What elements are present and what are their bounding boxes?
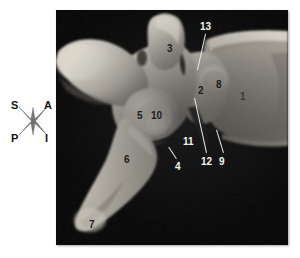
structure-label-7: 7 <box>89 220 95 230</box>
structure-label-3: 3 <box>167 44 173 54</box>
specimen-photograph: 12345678910111213 <box>56 10 288 245</box>
structure-label-13: 13 <box>200 22 211 32</box>
structure-label-10: 10 <box>151 111 162 121</box>
leader-line-13 <box>197 34 206 70</box>
leader-line-4 <box>168 146 177 159</box>
structure-label-8: 8 <box>216 80 222 90</box>
structure-label-11: 11 <box>183 137 194 147</box>
label-layer: 12345678910111213 <box>56 10 288 245</box>
compass-label-posterior: P <box>11 133 18 144</box>
compass-label-inferior: I <box>45 133 48 144</box>
structure-label-5: 5 <box>137 111 143 121</box>
structure-label-9: 9 <box>219 157 225 167</box>
leader-line-12 <box>194 98 207 153</box>
compass-label-superior: S <box>11 100 18 111</box>
structure-label-12: 12 <box>201 157 212 167</box>
leader-line-9 <box>216 130 224 153</box>
structure-label-2: 2 <box>198 86 204 96</box>
structure-label-4: 4 <box>175 162 181 172</box>
structure-label-1: 1 <box>240 92 246 102</box>
structure-label-6: 6 <box>124 155 130 165</box>
orientation-compass: S A P I <box>8 96 56 148</box>
compass-label-anterior: A <box>44 100 52 111</box>
